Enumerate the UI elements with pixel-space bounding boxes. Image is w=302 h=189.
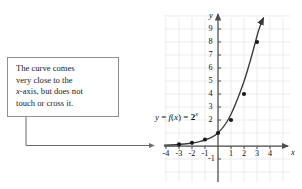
callout-leader-line [0,0,302,189]
figure-root: y x 9 8 7 6 5 4 3 2 -1 -4 -3 -2 -1 1 2 3… [0,0,302,189]
